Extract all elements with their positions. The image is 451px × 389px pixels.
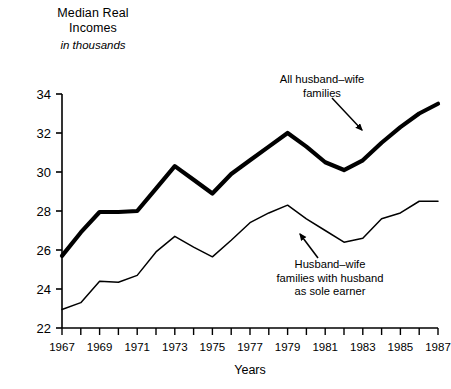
chart-plot-area: 22242628303234 1967196919711973197519771… — [0, 0, 451, 389]
y-axis-tick-label: 22 — [37, 321, 51, 336]
y-axis-tick-label: 30 — [37, 165, 51, 180]
x-axis-label: Years — [234, 363, 266, 377]
annotation-label: families — [303, 87, 341, 99]
y-axis: 22242628303234 — [37, 87, 62, 336]
annotation-arrow-icon — [300, 234, 318, 258]
x-axis-tick-label: 1975 — [200, 341, 226, 353]
x-axis-tick-label: 1987 — [425, 341, 451, 353]
y-axis-tick-label: 26 — [37, 243, 51, 258]
x-axis-tick-label: 1981 — [312, 341, 338, 353]
annotation-label: All husband–wife — [280, 73, 365, 85]
y-axis-tick-label: 34 — [37, 87, 51, 102]
x-axis-tick-label: 1977 — [237, 341, 263, 353]
x-axis-tick-label: 1969 — [87, 341, 113, 353]
x-axis-tick-label: 1979 — [275, 341, 301, 353]
y-axis-tick-label: 24 — [37, 282, 51, 297]
annotation-label: Husband–wife — [295, 258, 366, 270]
x-axis-tick-label: 1967 — [49, 341, 75, 353]
annotation-label: as sole earner — [295, 285, 366, 297]
data-series-line — [62, 201, 438, 309]
y-axis-tick-label: 32 — [37, 126, 51, 141]
annotation-arrow-icon — [332, 98, 362, 130]
annotation-group: All husband–wifefamiliesHusband–wifefami… — [277, 73, 384, 297]
x-axis-tick-label: 1983 — [350, 341, 376, 353]
x-axis: 1967196919711973197519771979198119831985… — [49, 328, 451, 353]
x-axis-tick-label: 1973 — [162, 341, 188, 353]
chart-container: Median Real Incomes in thousands 2224262… — [0, 0, 451, 389]
x-axis-tick-label: 1985 — [388, 341, 414, 353]
data-series-line — [62, 104, 438, 256]
y-axis-tick-label: 28 — [37, 204, 51, 219]
x-axis-tick-label: 1971 — [124, 341, 150, 353]
annotation-label: families with husband — [277, 272, 384, 284]
